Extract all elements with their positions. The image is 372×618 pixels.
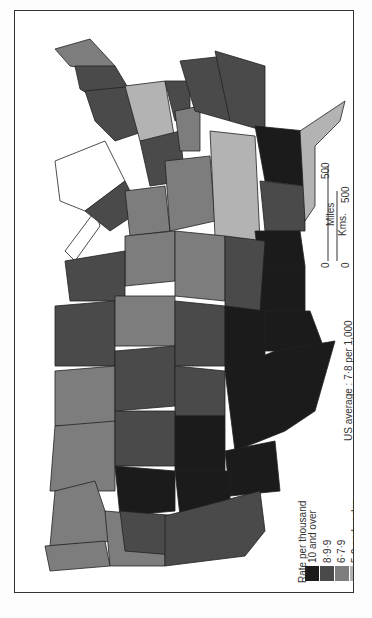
map-frame: Rate per thousand 10 and over 8·9·9 6·7·…	[14, 10, 354, 593]
state-region-iowa	[115, 296, 175, 346]
state-region-minnesota	[55, 301, 115, 366]
scale-miles-max: 500	[320, 162, 331, 179]
scale-miles-zero: 0	[320, 262, 331, 268]
state-region-missouri	[175, 231, 225, 301]
us-average-note: US average : 7·8 per 1,000	[343, 320, 354, 441]
state-region-georgia	[260, 181, 305, 231]
legend-swatch-6-7-9	[335, 566, 349, 581]
state-region-utah	[115, 466, 175, 516]
legend-label-10-and-over: 10 and over	[307, 510, 318, 563]
state-region-north-dakota	[55, 366, 115, 426]
state-region-nebraska	[175, 366, 225, 416]
state-region-arkansas	[225, 236, 265, 311]
state-region-florida	[300, 101, 345, 221]
legend-label-6-7-9: 6·7·9	[336, 540, 347, 563]
state-region-wyoming	[115, 411, 175, 466]
state-region-south-dakota	[115, 346, 175, 411]
scale-miles-label: Miles	[325, 203, 336, 226]
state-region-tennessee	[210, 131, 260, 241]
legend-label-5-9-and-under: 5·9 and under	[350, 501, 354, 563]
state-region-colorado	[175, 416, 225, 471]
state-region-indiana	[125, 186, 170, 236]
scale-kms-zero: 0	[340, 262, 351, 268]
legend-label-8-9-9: 8·9·9	[322, 540, 333, 563]
scale-kms-label: Kms.	[337, 213, 348, 236]
state-region-kansas	[175, 301, 225, 366]
legend-swatch-5-9-and-under	[350, 566, 354, 581]
state-region-washington	[45, 541, 110, 571]
scale-kms-max: 500	[340, 186, 351, 203]
state-region-illinois	[125, 231, 175, 286]
legend-swatch-8-9-9	[320, 566, 334, 581]
state-region-new-mexico	[225, 441, 280, 496]
state-region-montana	[50, 421, 115, 491]
state-region-south-carolina	[255, 126, 305, 186]
state-region-kentucky	[165, 156, 215, 231]
